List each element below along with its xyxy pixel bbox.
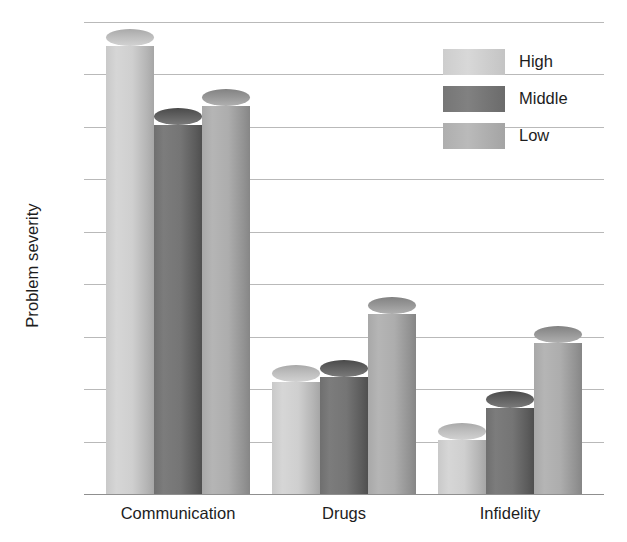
bar-body	[368, 314, 416, 494]
bar-top-cap	[438, 423, 486, 440]
bar	[154, 116, 202, 494]
bar-body	[486, 408, 534, 494]
bar-top-cap	[202, 89, 250, 106]
bar-top-cap	[272, 365, 320, 382]
bar	[438, 431, 486, 494]
bar-body	[106, 46, 154, 494]
legend-swatch	[443, 123, 505, 149]
bar	[272, 373, 320, 494]
bar-group	[106, 22, 250, 494]
bar-top-cap	[154, 108, 202, 125]
legend-item: High	[443, 44, 608, 79]
bar	[106, 38, 154, 494]
bar-body	[438, 440, 486, 494]
y-axis-title: Problem severity	[23, 146, 42, 386]
bar-body	[320, 377, 368, 494]
bar-body	[154, 125, 202, 494]
bar-group	[272, 22, 416, 494]
legend-label: High	[519, 52, 553, 71]
bar	[202, 98, 250, 494]
chart-legend: HighMiddleLow	[443, 44, 608, 155]
bar-chart: Problem severity 051015202530354045 Comm…	[0, 0, 627, 542]
axis-baseline	[84, 494, 604, 495]
legend-swatch	[443, 49, 505, 75]
legend-label: Low	[519, 126, 549, 145]
bar	[320, 368, 368, 494]
bar-top-cap	[368, 297, 416, 314]
bar-top-cap	[534, 326, 582, 343]
bar-top-cap	[320, 360, 368, 377]
bar	[486, 400, 534, 494]
bar-body	[272, 382, 320, 494]
legend-item: Low	[443, 118, 608, 153]
legend-swatch	[443, 86, 505, 112]
x-axis-tick-label: Infidelity	[398, 504, 622, 523]
bar-body	[202, 106, 250, 494]
bar	[368, 305, 416, 494]
bar-top-cap	[106, 29, 154, 46]
bar-body	[534, 343, 582, 494]
legend-item: Middle	[443, 81, 608, 116]
bar	[534, 335, 582, 494]
bar-top-cap	[486, 391, 534, 408]
legend-label: Middle	[519, 89, 568, 108]
